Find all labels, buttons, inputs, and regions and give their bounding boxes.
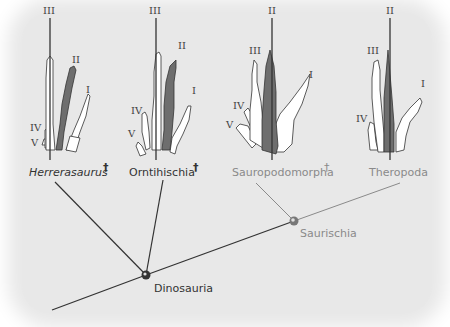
digit-label-IV: IV (30, 122, 42, 133)
svg-text:Theropoda: Theropoda (368, 166, 428, 179)
cladogram: Dinosauria Saurischia III II I IV V Herr… (0, 0, 450, 327)
digit-label-I: I (421, 78, 425, 89)
svg-text:Herrerasaurus: Herrerasaurus (29, 166, 108, 179)
digit-label-V: V (127, 128, 136, 139)
theropoda-branch (294, 183, 400, 221)
digit-label-III: III (43, 5, 55, 16)
herrerasaurus-branch (55, 182, 146, 275)
extinct-dagger-icon: † (103, 161, 109, 174)
root-branch (52, 275, 146, 310)
taxon-label-theropoda: Theropoda (368, 166, 428, 179)
digit-label-V: V (225, 119, 234, 130)
sauropodomorpha-branch (256, 183, 294, 221)
node-label-saurischia: Saurischia (300, 227, 357, 240)
digit-label-II: II (268, 5, 276, 16)
digit-label-II: II (386, 5, 394, 16)
ornithischia-branch (146, 180, 163, 275)
digit-label-IV: IV (131, 105, 143, 116)
taxon-label-sauropodomorpha: Sauropodomorpha † (232, 161, 334, 179)
taxon-label-ornithischia: Orntihischia † (129, 161, 199, 179)
digit-label-I: I (309, 69, 313, 80)
node-label-dinosauria: Dinosauria (154, 282, 213, 295)
saurischia-stem (146, 221, 294, 275)
digit-label-I: I (86, 84, 90, 95)
svg-text:Orntihischia: Orntihischia (129, 166, 195, 179)
digit-label-I: I (192, 85, 196, 96)
hand-herrerasaurus (42, 18, 90, 160)
digit-label-III: III (149, 5, 161, 16)
cladogram-branches (52, 180, 400, 310)
digit-label-IV: IV (356, 113, 368, 124)
node-saurischia (290, 217, 299, 226)
digit-label-IV: IV (233, 100, 245, 111)
digit-label-II: II (72, 54, 80, 65)
digit-label-III: III (249, 45, 261, 56)
hand-theropoda (368, 18, 422, 160)
node-dinosauria (142, 271, 151, 280)
taxon-label-herrerasaurus: Herrerasaurus † (29, 161, 109, 179)
digit-label-II: II (178, 40, 186, 51)
digit-label-V: V (30, 137, 39, 148)
svg-text:Sauropodomorpha: Sauropodomorpha (232, 166, 334, 179)
hand-sauropodomorpha (236, 18, 310, 160)
extinct-dagger-icon: † (193, 161, 199, 174)
digit-label-III: III (367, 45, 379, 56)
extinct-dagger-icon: † (324, 161, 330, 174)
